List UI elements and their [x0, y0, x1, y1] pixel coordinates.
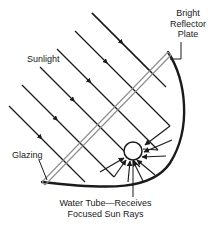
water-tube: [124, 142, 142, 160]
label-water-tube-line1: Water Tube—Receives: [0, 198, 211, 209]
sunlight-ray: [75, 31, 137, 93]
label-reflector-line2: Reflector: [170, 19, 206, 30]
label-water-tube: Water Tube—Receives Focused Sun Rays: [0, 198, 211, 219]
sunlight-ray: [40, 67, 106, 133]
label-water-tube-line2: Focused Sun Rays: [0, 209, 211, 220]
label-sunlight: Sunlight: [27, 54, 60, 65]
sunlight-ray: [57, 49, 122, 114]
sunlight-ray: [92, 13, 151, 72]
label-bright-reflector-plate: Bright Reflector Plate: [170, 8, 206, 40]
label-glazing: Glazing: [12, 150, 43, 161]
sunlight-rays-interior: [72, 72, 170, 182]
leader-glazing: [39, 160, 47, 180]
label-reflector-line3: Plate: [170, 29, 206, 40]
label-reflector-line1: Bright: [170, 8, 206, 19]
